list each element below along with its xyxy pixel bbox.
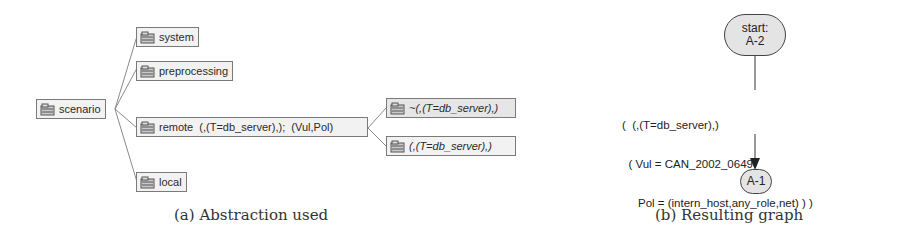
- package-icon: [390, 140, 405, 153]
- package-icon: [140, 121, 155, 134]
- tree-node-label: system: [159, 31, 194, 43]
- package-icon: [140, 65, 155, 78]
- tree-node-local[interactable]: local: [136, 172, 187, 192]
- tree-node-not-db-server[interactable]: ~(,(T=db_server),): [386, 98, 516, 118]
- package-icon: [390, 102, 405, 115]
- caption-a: (a) Abstraction used: [174, 206, 328, 224]
- edge-label: ( (,(T=db_server),) ( Vul = CAN_2002_064…: [622, 93, 813, 223]
- tree-node-label: preprocessing: [159, 65, 228, 77]
- edge-label-line2: ( Vul = CAN_2002_0649: [622, 158, 813, 171]
- tree-node-system[interactable]: system: [136, 27, 199, 47]
- edge-label-line1: ( (,(T=db_server),): [622, 119, 813, 132]
- tree-node-label: scenario: [59, 103, 101, 115]
- tree-node-label: (,(T=db_server),): [409, 140, 492, 152]
- graph-node-start[interactable]: start: A-2: [724, 14, 786, 56]
- graph-node-a1[interactable]: A-1: [740, 169, 772, 194]
- caption-b: (b) Resulting graph: [655, 206, 803, 224]
- graph-node-label: A-1: [747, 175, 766, 188]
- tree-node-db-server[interactable]: (,(T=db_server),): [386, 136, 516, 156]
- package-icon: [40, 103, 55, 116]
- tree-node-label: ~(,(T=db_server),): [409, 102, 498, 114]
- tree-node-preprocessing[interactable]: preprocessing: [136, 61, 233, 81]
- tree-node-remote[interactable]: remote (,(T=db_server),); (Vul,Pol): [136, 117, 368, 137]
- tree-node-scenario[interactable]: scenario: [36, 99, 106, 119]
- tree-node-label: remote (,(T=db_server),); (Vul,Pol): [159, 121, 333, 133]
- package-icon: [140, 31, 155, 44]
- tree-node-label: local: [159, 176, 182, 188]
- graph-node-line2: A-2: [746, 35, 765, 48]
- package-icon: [140, 176, 155, 189]
